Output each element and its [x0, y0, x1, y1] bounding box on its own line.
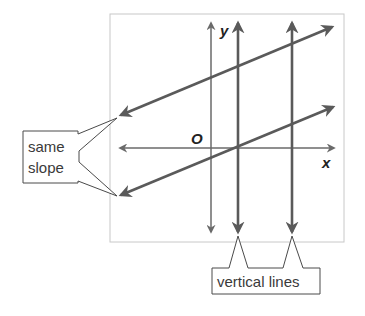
graph-frame [110, 14, 344, 242]
same-slope-text-line1: same [28, 138, 65, 155]
same-slope-callout [23, 118, 117, 196]
y-axis-label: y [219, 22, 229, 39]
vertical-lines-text: vertical lines [217, 273, 300, 290]
origin-label: O [191, 130, 203, 147]
parallel-line-lower [121, 107, 333, 195]
x-axis-label: x [321, 154, 331, 171]
parallel-lines-diagram: y x O same slope vertical lines [0, 0, 365, 316]
same-slope-text-line2: slope [28, 159, 64, 176]
parallel-line-upper [121, 27, 332, 115]
